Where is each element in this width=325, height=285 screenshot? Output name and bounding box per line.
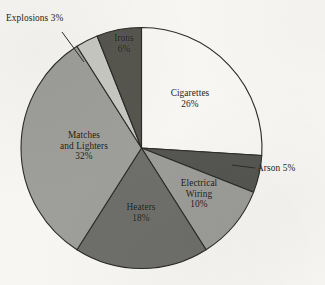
- slice-label-irons-value: 6%: [103, 44, 145, 55]
- slice-label-cigarettes-name: Cigarettes: [150, 88, 230, 99]
- slice-label-heaters: Heaters 18%: [110, 202, 172, 223]
- slice-label-heaters-name: Heaters: [110, 202, 172, 213]
- slice-label-electrical-wiring-name1: Electrical: [166, 178, 232, 189]
- slice-label-irons: Irons 6%: [103, 33, 145, 54]
- slice-label-arson: Arson 5%: [257, 163, 295, 174]
- slice-label-cigarettes-value: 26%: [150, 99, 230, 110]
- slice-label-cigarettes: Cigarettes 26%: [150, 88, 230, 109]
- slice-label-matches-and-lighters-name1: Matches: [38, 130, 130, 141]
- slice-label-matches-and-lighters-name2: and Lighters: [38, 141, 130, 152]
- slice-label-matches-and-lighters: Matches and Lighters 32%: [38, 130, 130, 162]
- slice-label-matches-and-lighters-value: 32%: [38, 151, 130, 162]
- slice-label-arson-text: Arson 5%: [257, 163, 295, 174]
- slice-label-electrical-wiring: Electrical Wiring 10%: [166, 178, 232, 210]
- pie-chart: Explosions 3% Irons 6% Cigarettes 26% Ar…: [0, 0, 325, 285]
- slice-label-heaters-value: 18%: [110, 213, 172, 224]
- slice-label-explosions: Explosions 3%: [6, 13, 63, 24]
- slice-label-irons-name: Irons: [103, 33, 145, 44]
- slice-label-electrical-wiring-value: 10%: [166, 199, 232, 210]
- slice-label-explosions-text: Explosions 3%: [6, 13, 63, 24]
- slice-label-electrical-wiring-name2: Wiring: [166, 189, 232, 200]
